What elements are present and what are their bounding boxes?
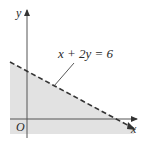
shaded-region <box>10 62 134 134</box>
equation-label: x + 2y = 6 <box>57 46 114 61</box>
label-leader-line <box>54 63 74 86</box>
origin-label: O <box>16 120 25 134</box>
x-axis-label: x <box>130 122 137 136</box>
inequality-graph: x + 2y = 6 y O x <box>0 0 142 146</box>
y-axis-label: y <box>15 6 22 20</box>
